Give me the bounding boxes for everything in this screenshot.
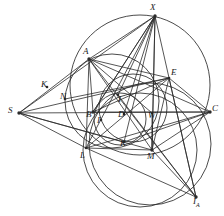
label-W: W bbox=[148, 111, 156, 120]
vertex-X bbox=[153, 14, 156, 17]
label-I: I bbox=[118, 95, 121, 104]
label-X: X bbox=[150, 3, 156, 12]
A-to-B bbox=[89, 59, 93, 112]
label-text-M: M bbox=[147, 151, 155, 161]
label-L: L bbox=[80, 151, 85, 160]
label-subscript-IA: A bbox=[196, 202, 200, 208]
label-M: M bbox=[147, 152, 155, 161]
vertex-I1 bbox=[100, 119, 103, 122]
label-text-E: E bbox=[171, 67, 177, 77]
S-to-K bbox=[19, 113, 124, 142]
label-C: C bbox=[212, 104, 218, 113]
label-S: S bbox=[8, 106, 13, 115]
diagram-canvas bbox=[0, 0, 224, 216]
L-to-E bbox=[86, 78, 169, 148]
L-to-M bbox=[86, 148, 152, 150]
label-A: A bbox=[83, 47, 89, 56]
vertex-E bbox=[168, 77, 171, 80]
mixtilinear-circle bbox=[65, 54, 159, 148]
label-IA: IA bbox=[193, 197, 200, 208]
label-I1: I bbox=[97, 116, 100, 125]
label-text-X: X bbox=[150, 2, 156, 12]
label-text-W: W bbox=[148, 110, 156, 120]
vertex-S bbox=[17, 111, 20, 114]
label-Kp: K bbox=[41, 80, 47, 89]
label-text-L: L bbox=[80, 150, 85, 160]
label-D: D bbox=[118, 110, 125, 119]
label-text-I1: I bbox=[97, 115, 100, 125]
A-to-E bbox=[89, 59, 169, 78]
label-text-N: N bbox=[60, 91, 66, 101]
label-text-I: I bbox=[118, 94, 121, 104]
vertex-L bbox=[85, 147, 88, 150]
A-to-L bbox=[86, 59, 89, 148]
label-E: E bbox=[171, 68, 177, 77]
segments-group bbox=[19, 16, 210, 197]
label-K: K bbox=[120, 139, 126, 148]
label-N: N bbox=[60, 92, 66, 101]
vertex-A bbox=[87, 57, 90, 60]
label-text-D: D bbox=[118, 109, 125, 119]
label-B: B bbox=[86, 110, 92, 119]
excircle-A bbox=[89, 83, 211, 205]
label-text-A: A bbox=[83, 46, 89, 56]
geometry-figure: XAESCKNIBIDWLKMIA bbox=[0, 0, 224, 216]
label-text-C: C bbox=[212, 103, 218, 113]
label-text-Kp: K bbox=[41, 79, 47, 89]
K-to-C bbox=[124, 112, 210, 142]
label-text-S: S bbox=[8, 105, 13, 115]
label-text-B: B bbox=[86, 109, 92, 119]
label-text-K: K bbox=[120, 138, 126, 148]
X-to-D bbox=[124, 16, 155, 114]
M-to-IA bbox=[152, 150, 196, 197]
